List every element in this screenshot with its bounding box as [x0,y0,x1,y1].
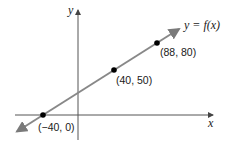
y-axis-label: y [67,3,74,17]
point-label: (−40, 0) [38,121,74,133]
point-label: (40, 50) [116,74,152,86]
point-label: (88, 80) [160,46,196,58]
data-point [40,112,46,118]
chart: y x y = f(x) (−40, 0) (40, 50) (88, 80) [0,0,227,144]
line-label: y = f(x) [183,18,220,32]
data-point [111,67,117,73]
data-point [154,40,160,46]
x-axis-label: x [207,116,214,130]
